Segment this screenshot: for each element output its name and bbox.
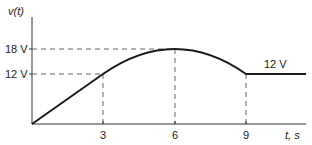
x-tick-label-3: 3 (100, 129, 106, 141)
x-axis-label: t, s (285, 129, 300, 141)
y-tick-label-12: 12 V (5, 68, 28, 80)
y-axis-label: v(t) (8, 5, 24, 17)
flat-segment-annotation: 12 V (264, 58, 287, 70)
voltage-chart (0, 0, 312, 145)
x-tick-label-6: 6 (172, 129, 178, 141)
x-tick-label-9: 9 (243, 129, 249, 141)
y-tick-label-18: 18 V (5, 43, 28, 55)
dashed-guides (32, 49, 246, 124)
